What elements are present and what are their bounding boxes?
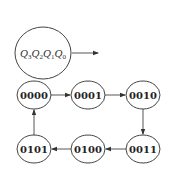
state-node-0000: 0000 <box>17 81 51 109</box>
legend-label: Q3Q2Q1Q0 <box>20 47 66 61</box>
state-label: 0000 <box>20 90 48 101</box>
state-diagram: Q3Q2Q1Q0 0000 0001 0010 0011 0100 0101 <box>0 0 175 174</box>
state-label: 0011 <box>129 144 157 155</box>
legend-node: Q3Q2Q1Q0 <box>15 27 71 79</box>
state-node-0010: 0010 <box>126 81 160 109</box>
state-node-0101: 0101 <box>17 135 51 163</box>
state-node-0001: 0001 <box>71 81 105 109</box>
state-label: 0001 <box>74 90 102 101</box>
state-label: 0101 <box>20 144 48 155</box>
state-node-0011: 0011 <box>126 135 160 163</box>
state-label: 0010 <box>129 90 157 101</box>
state-label: 0100 <box>74 144 102 155</box>
state-node-0100: 0100 <box>71 135 105 163</box>
